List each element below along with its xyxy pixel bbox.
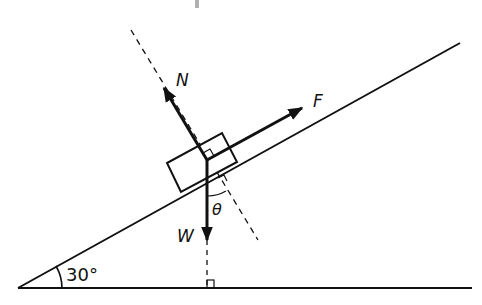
incline-angle-label: 30°: [66, 264, 98, 285]
incline-diagram: N F W θ 30°: [0, 0, 482, 305]
top-mark: [195, 0, 199, 8]
normal-force-label: N: [176, 70, 189, 90]
incline-line: [18, 43, 460, 288]
theta-arc: [207, 191, 226, 196]
ground-right-angle-mark: [207, 280, 214, 288]
incline-angle-arc: [56, 266, 62, 288]
normal-force-arrow: [164, 88, 207, 160]
applied-force-label: F: [313, 91, 323, 111]
weight-label: W: [177, 226, 195, 246]
block: [167, 133, 237, 192]
normal-dashed-line: [131, 30, 258, 240]
theta-label: θ: [212, 200, 222, 219]
